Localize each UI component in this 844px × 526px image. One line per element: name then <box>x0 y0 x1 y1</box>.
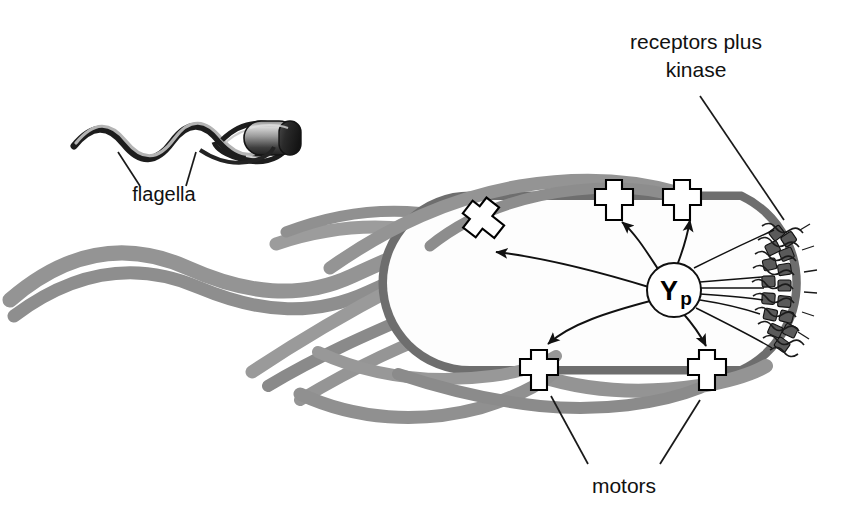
cell-body <box>387 200 792 366</box>
label-receptors-line1: receptors plus <box>630 30 762 53</box>
figure-root: Y p <box>0 0 844 526</box>
leader-flagella-right <box>186 152 196 186</box>
label-motors: motors <box>592 474 656 497</box>
leader-motors-right <box>660 400 700 464</box>
label-receptors-line2: kinase <box>666 58 727 81</box>
bacterium-inset <box>74 121 301 163</box>
label-flagella: flagella <box>132 183 196 205</box>
chemotaxis-diagram: Y p <box>0 0 844 526</box>
yp-subscript: p <box>680 288 692 309</box>
yp-main-letter: Y <box>660 276 678 306</box>
